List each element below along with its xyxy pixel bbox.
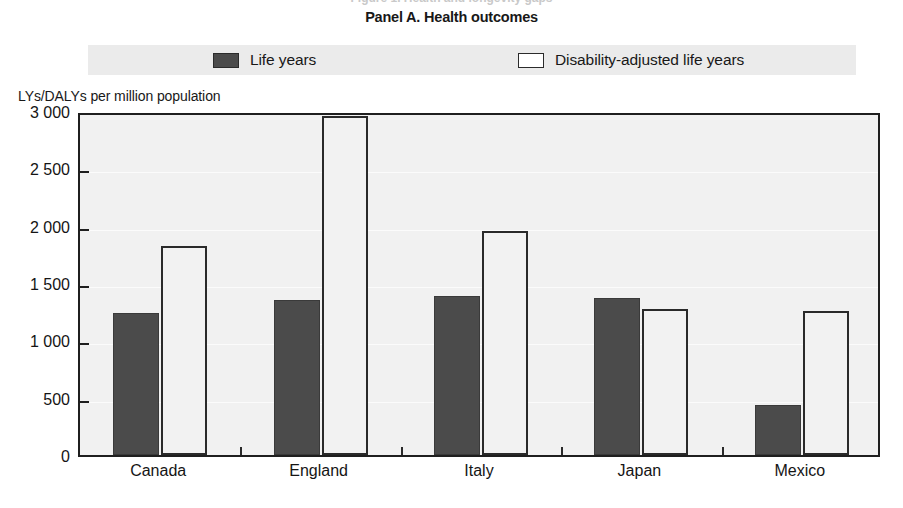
y-axis-tick-labels: 05001 0001 5002 0002 5003 000 (0, 113, 70, 457)
y-axis-tick (80, 229, 89, 231)
x-axis-category-separator (240, 447, 242, 455)
clipped-header-text: Figure 1. Health and longevity gaps (0, 0, 903, 6)
x-axis-label-italy: Italy (464, 462, 493, 480)
x-axis-label-england: England (289, 462, 348, 480)
y-axis-tick (80, 401, 89, 403)
y-axis-tick-label: 500 (8, 391, 70, 409)
plot-area (78, 113, 880, 457)
bar-mexico-daly (803, 311, 849, 455)
y-axis-tick (80, 286, 89, 288)
y-axis-tick-label: 0 (8, 448, 70, 466)
legend-swatch-daly-icon (518, 53, 544, 68)
y-axis-tick-label: 3 000 (8, 104, 70, 122)
legend-swatch-life-years-icon (213, 53, 239, 68)
bar-japan-daly (642, 309, 688, 455)
chart-legend: Life years Disability-adjusted life year… (88, 45, 856, 75)
bar-canada-life-years (113, 313, 159, 455)
gridline (80, 172, 878, 173)
y-axis-tick (80, 171, 89, 173)
bar-italy-daly (482, 231, 528, 455)
legend-label-life-years: Life years (250, 51, 316, 69)
gridline (80, 230, 878, 231)
x-axis-label-canada: Canada (130, 462, 186, 480)
y-axis-tick-label: 1 000 (8, 333, 70, 351)
y-axis-tick-label: 1 500 (8, 276, 70, 294)
x-axis-category-separator (401, 447, 403, 455)
plot-inner (80, 115, 878, 455)
bar-england-daly (322, 116, 368, 455)
y-axis-tick-label: 2 000 (8, 219, 70, 237)
legend-label-daly: Disability-adjusted life years (555, 51, 744, 69)
bar-italy-life-years (434, 296, 480, 455)
bar-england-life-years (274, 300, 320, 455)
legend-item-daly: Disability-adjusted life years (518, 51, 744, 69)
y-axis-caption: LYs/DALYs per million population (18, 88, 221, 104)
legend-item-life-years: Life years (213, 51, 316, 69)
x-axis-category-separator (561, 447, 563, 455)
x-axis-tick-labels: CanadaEnglandItalyJapanMexico (78, 462, 880, 492)
x-axis-label-japan: Japan (618, 462, 662, 480)
bar-japan-life-years (594, 298, 640, 455)
panel-title: Panel A. Health outcomes (0, 9, 903, 25)
x-axis-label-mexico: Mexico (774, 462, 825, 480)
x-axis-category-separator (722, 447, 724, 455)
bar-mexico-life-years (755, 405, 801, 455)
y-axis-tick-label: 2 500 (8, 161, 70, 179)
bar-canada-daly (161, 246, 207, 455)
y-axis-tick (80, 343, 89, 345)
